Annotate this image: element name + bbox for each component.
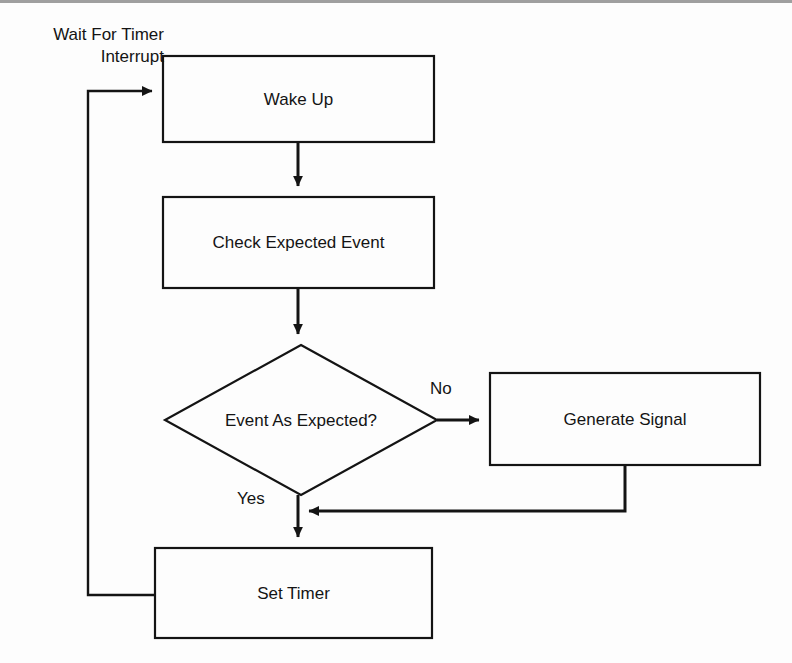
node-event-as-expected-label: Event As Expected? <box>165 410 437 431</box>
node-check-expected-event-label: Check Expected Event <box>163 232 434 253</box>
annotation-wait-for-timer-interrupt: Wait For Timer Interrupt <box>8 24 164 68</box>
edge-set-timer-back-to-wake-up <box>88 91 155 595</box>
node-generate-signal-label: Generate Signal <box>490 409 760 430</box>
node-wake-up-label: Wake Up <box>163 89 434 110</box>
edge-generate-signal-back-to-set-timer <box>309 465 625 511</box>
edge-label-no: No <box>430 378 452 399</box>
node-set-timer-label: Set Timer <box>155 583 432 604</box>
flowchart-canvas: Wake Up Check Expected Event Event As Ex… <box>0 0 792 663</box>
edge-label-yes: Yes <box>237 488 265 509</box>
